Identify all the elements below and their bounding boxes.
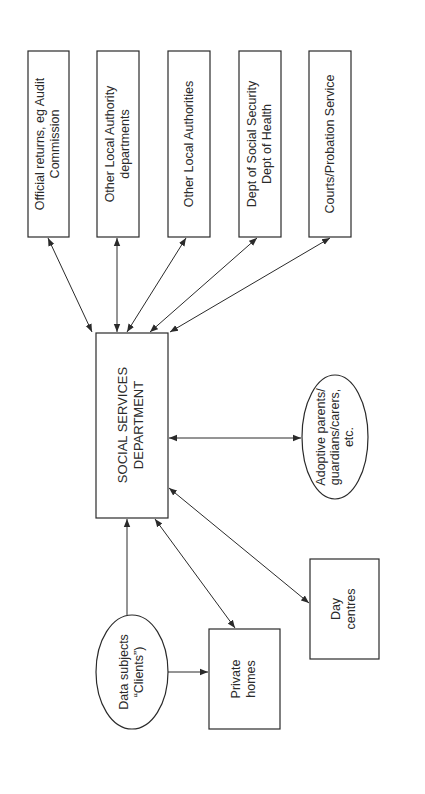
other-la-label: Other Local Authorities [182,81,196,207]
edge-ssd-audit [48,238,92,332]
other-dept-label-line2: departments [118,109,132,178]
box-courts-probation: Courts/Probation Service [309,51,351,237]
audit-label-line1: Official returns, eg Audit [33,77,47,210]
edge-ssd-other-la [127,238,186,332]
edge-ssd-courts [170,238,330,332]
box-audit: Official returns, eg Audit Commission [28,51,69,237]
box-other-local-authorities: Other Local Authorities [168,51,210,237]
ellipse-data-subjects-clients: Data subjects “Clients”) [96,615,168,729]
adoptive-label-line1: Adoptive parents/ [314,388,328,486]
clients-label-line1: Data subjects [117,634,131,710]
ssd-label-line1: SOCIAL SERVICES [115,367,130,484]
box-private-homes: Private homes [209,629,280,729]
dss-label-line1: Dept of Social Security [245,80,259,207]
private-homes-line1: Private [229,660,243,699]
other-dept-label-line1: Other Local Authority [103,85,117,202]
courts-label: Courts/Probation Service [323,74,337,213]
box-other-la-departments: Other Local Authority departments [97,51,139,237]
day-centres-line1: Day [329,597,343,620]
edge-ssd-dss [150,238,257,332]
ellipse-adoptive-parents: Adoptive parents/ guardians/carers, etc. [302,375,368,499]
box-dss-health: Dept of Social Security Dept of Health [239,51,281,237]
private-homes-line2: homes [244,660,258,698]
audit-label-line2: Commission [48,110,62,179]
adoptive-label-line3: etc. [342,427,356,447]
clients-label-line2: “Clients”) [132,647,146,698]
box-social-services-department: SOCIAL SERVICES DEPARTMENT [96,333,168,518]
diagram-canvas: Official returns, eg Audit Commission Ot… [0,0,425,794]
ssd-label-line2: DEPARTMENT [131,381,146,469]
edge-ssd-day-centres [169,488,309,603]
adoptive-label-line2: guardians/carers, [328,389,342,486]
box-day-centres: Day centres [310,559,379,659]
dss-label-line2: Dept of Health [260,104,274,184]
edge-ssd-private-homes [155,519,235,628]
day-centres-line2: centres [344,589,358,630]
